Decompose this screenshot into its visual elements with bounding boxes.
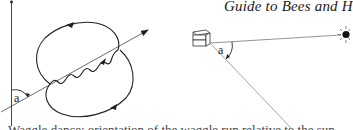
hive-icon bbox=[193, 30, 210, 46]
waggle-run-arrow bbox=[1, 30, 148, 112]
figure-caption-partial: Waggle dance: orientation of the waggle … bbox=[8, 124, 335, 130]
hive-sun-panel: a bbox=[193, 26, 350, 128]
waggle-dance-panel: a bbox=[1, 1, 148, 126]
angle-label-right: a bbox=[218, 43, 224, 57]
upper-loop-arrow-icon bbox=[66, 22, 74, 28]
vertical-top-dot-icon bbox=[10, 1, 13, 4]
angle-label-left: a bbox=[14, 91, 20, 105]
caption-text: Waggle dance: orientation of the waggle … bbox=[8, 124, 335, 130]
sun-direction-line bbox=[210, 35, 341, 43]
sun-icon bbox=[338, 26, 350, 43]
